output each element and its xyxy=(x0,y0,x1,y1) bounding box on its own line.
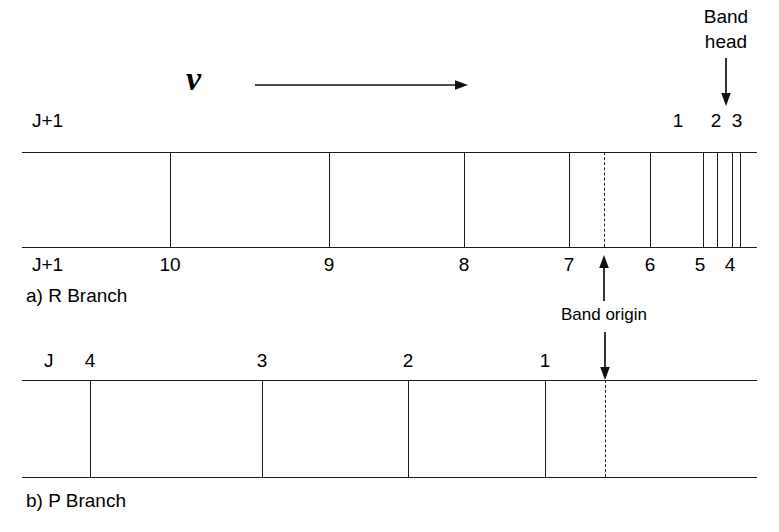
band-origin-up-arrow xyxy=(597,255,613,301)
p-band-origin-dashed-line xyxy=(605,380,606,477)
band-origin-down-arrow xyxy=(598,332,614,380)
r-line-number-1: 1 xyxy=(673,110,684,131)
r-line-number-3: 3 xyxy=(732,110,743,131)
p-spectral-line-j4 xyxy=(90,380,91,477)
frequency-axis-symbol: ν xyxy=(186,62,201,96)
p-line-number-1: 1 xyxy=(540,350,551,371)
p-spectral-line-j1 xyxy=(545,380,546,477)
band-origin-label: Band origin xyxy=(561,305,647,324)
caption-p-branch: b) P Branch xyxy=(26,490,126,511)
p-branch-top-rail xyxy=(22,380,757,381)
r-spectral-line-j5 xyxy=(703,152,704,247)
r-branch-left-label-bottom: J+1 xyxy=(32,254,63,275)
figure-canvas: Band head ν J+1 1 2 3 J+1 10 9 8 7 6 5 4… xyxy=(0,0,779,532)
r-bottom-number-8: 8 xyxy=(459,254,470,275)
r-branch-bottom-rail xyxy=(22,247,757,248)
r-bottom-number-4: 4 xyxy=(725,254,736,275)
r-band-origin-dashed-line xyxy=(604,152,605,247)
r-spectral-line-j7 xyxy=(569,152,570,247)
r-branch-left-label-top: J+1 xyxy=(32,110,63,131)
p-spectral-line-j2 xyxy=(408,380,409,477)
p-spectral-line-j3 xyxy=(262,380,263,477)
r-bottom-number-5: 5 xyxy=(695,254,706,275)
r-spectral-line-j4 xyxy=(717,152,718,247)
r-branch-top-rail xyxy=(22,152,757,153)
band-head-arrow xyxy=(720,58,736,106)
r-spectral-line-j8 xyxy=(464,152,465,247)
r-spectral-line-j10 xyxy=(170,152,171,247)
r-bottom-number-7: 7 xyxy=(564,254,575,275)
p-line-number-3: 3 xyxy=(257,350,268,371)
r-bottom-number-6: 6 xyxy=(645,254,656,275)
frequency-direction-arrow xyxy=(255,76,470,94)
r-spectral-line-j9 xyxy=(329,152,330,247)
p-branch-bottom-rail xyxy=(22,477,757,478)
r-spectral-line-j6 xyxy=(650,152,651,247)
band-head-label-line1: Band xyxy=(704,6,748,27)
r-spectral-line-j3 xyxy=(732,152,733,247)
r-spectral-line-bandhead xyxy=(740,152,741,247)
p-line-number-2: 2 xyxy=(403,350,414,371)
r-bottom-number-10: 10 xyxy=(159,254,180,275)
p-branch-left-label: J xyxy=(44,350,54,371)
p-line-number-4: 4 xyxy=(85,350,96,371)
band-head-label-line2: head xyxy=(705,31,747,52)
r-bottom-number-9: 9 xyxy=(324,254,335,275)
caption-r-branch: a) R Branch xyxy=(26,285,127,306)
r-line-number-2: 2 xyxy=(711,110,722,131)
